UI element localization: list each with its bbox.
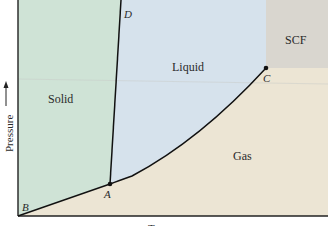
x-axis-label: Temperature bbox=[148, 222, 204, 226]
phase-diagram: Solid Liquid Gas SCF A B C D Pressure Te… bbox=[0, 0, 328, 226]
point-label-D: D bbox=[123, 8, 132, 20]
y-axis-label: Pressure bbox=[3, 115, 15, 152]
gas-label: Gas bbox=[233, 149, 252, 163]
triple-point-A bbox=[108, 182, 113, 187]
solid-label: Solid bbox=[48, 92, 73, 106]
point-label-A: A bbox=[103, 188, 111, 200]
solid-region bbox=[18, 0, 121, 216]
point-label-B: B bbox=[22, 201, 29, 213]
y-axis-title: Pressure bbox=[3, 115, 15, 152]
liquid-label: Liquid bbox=[172, 60, 204, 74]
point-label-C: C bbox=[263, 72, 271, 84]
critical-point-C bbox=[264, 66, 269, 71]
scf-label: SCF bbox=[285, 33, 307, 47]
y-axis-arrowhead-icon bbox=[4, 81, 9, 88]
